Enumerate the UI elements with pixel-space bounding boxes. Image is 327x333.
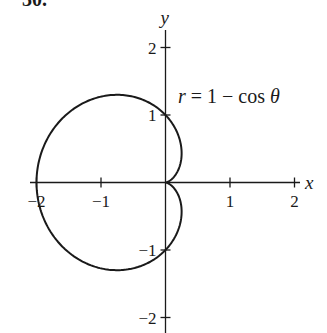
x-axis-label: x [304, 172, 314, 193]
x-tick-label: −1 [92, 192, 110, 211]
x-tick-label: 2 [290, 192, 299, 211]
y-tick-label: 2 [148, 39, 157, 58]
y-tick-label: −1 [138, 241, 156, 260]
equation-label: r = 1 − cos θ [178, 85, 280, 107]
polar-plot: −2−112−2−112 x y r = 1 − cos θ [0, 0, 327, 333]
y-tick-label: 1 [148, 106, 157, 125]
y-axis-label: y [159, 7, 170, 28]
y-tick-label: −2 [138, 309, 156, 328]
x-tick-label: 1 [226, 192, 235, 211]
axes [30, 30, 300, 333]
